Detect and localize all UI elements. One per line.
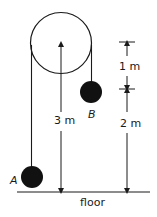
label-floor: floor xyxy=(80,196,105,209)
ball-a xyxy=(21,166,43,188)
pulley-diagram: 3 m 1 m 2 m floor A B xyxy=(0,0,157,217)
label-1m: 1 m xyxy=(119,60,140,73)
label-3m: 3 m xyxy=(54,114,75,127)
label-a: A xyxy=(9,174,18,187)
label-2m: 2 m xyxy=(120,117,141,130)
label-b: B xyxy=(88,108,96,121)
ball-b xyxy=(80,81,102,103)
